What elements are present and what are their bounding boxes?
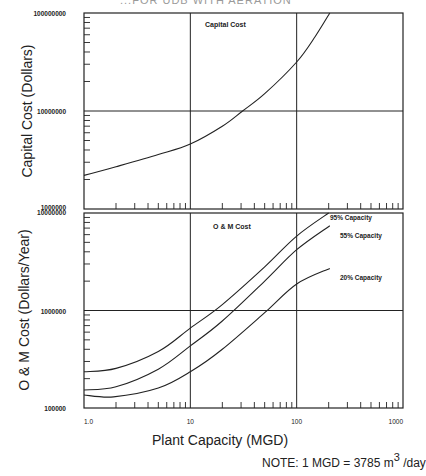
unit-note: NOTE: 1 MGD = 3785 m3 /day <box>262 456 426 470</box>
series-line-0 <box>84 13 330 175</box>
panel-title: O & M Cost <box>213 223 251 230</box>
series-line-2 <box>84 268 330 397</box>
panel-title: Capital Cost <box>205 21 247 29</box>
series-label: 95% Capacity <box>330 214 372 222</box>
y-tick-label: 100000 <box>44 405 66 412</box>
top-y-axis-label: Capital Cost (Dollars) <box>19 36 35 186</box>
series-line-0 <box>84 213 329 372</box>
note-exponent: 3 <box>394 451 400 463</box>
x-axis-label: Plant Capacity (MGD) <box>152 432 288 448</box>
om-cost-panel: 100000100000010000000O & M Cost95% Capac… <box>37 209 403 425</box>
y-tick-label: 10000000 <box>37 209 66 216</box>
x-tick-label: 100 <box>291 418 302 425</box>
series-label: 20% Capacity <box>340 274 382 282</box>
series-label: 55% Capacity <box>340 232 382 240</box>
x-tick-label: 1000 <box>389 418 404 425</box>
bottom-y-axis-label: O & M Cost (Dollars/Year) <box>16 220 32 400</box>
x-tick-label: 10 <box>187 418 195 425</box>
y-tick-label: 10000000 <box>37 108 66 115</box>
y-tick-label: 1000000 <box>41 308 67 315</box>
note-text: NOTE: 1 MGD = 3785 m <box>262 456 394 470</box>
capital-cost-panel: 100000010000000100000000Capital Cost <box>33 10 403 211</box>
series-line-1 <box>84 226 330 390</box>
x-tick-label: 1.0 <box>84 418 93 425</box>
note-suffix: /day <box>400 456 426 470</box>
y-tick-label: 100000000 <box>33 10 66 17</box>
